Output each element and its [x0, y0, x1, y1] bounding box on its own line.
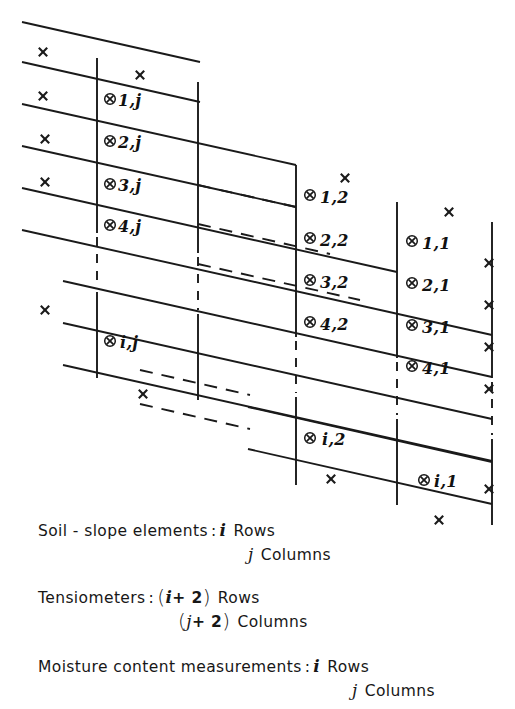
legend-entry-tensiometers-line1: Tensiometers:(i+ 2)Rows — [38, 585, 260, 609]
cell-label-i2: i,2 — [322, 430, 346, 449]
measurement-point-31 — [407, 320, 418, 331]
measurement-point-4j — [105, 220, 116, 231]
legend-symbol-j: j — [248, 544, 254, 564]
legend-plus-two: + 2 — [172, 589, 202, 607]
legend-colon: : — [208, 522, 220, 540]
cell-label-text: 2,1 — [422, 276, 451, 295]
cell-label-12: 1,2 — [320, 188, 349, 207]
legend-unit-rows: Rows — [211, 589, 260, 607]
legend-unit-columns: Columns — [358, 682, 435, 700]
cell-label-text: 3,1 — [422, 318, 451, 337]
tensiometer-mark — [41, 135, 49, 143]
tensiometer-mark — [41, 306, 49, 314]
row-lines — [22, 22, 492, 504]
measurement-point-symbols — [105, 94, 430, 486]
cell-label-42: 4,2 — [320, 315, 349, 334]
cell-label-text: i,j — [120, 333, 138, 352]
cell-label-text: 3,2 — [320, 273, 349, 292]
cell-label-text: 2,j — [118, 133, 141, 152]
tensiometer-mark — [341, 174, 349, 182]
tensiometer-mark — [139, 390, 147, 398]
legend-label-tensiometers: Tensiometers — [38, 589, 146, 607]
dashed-row-d — [140, 370, 250, 395]
legend-unit-rows: Rows — [226, 522, 275, 540]
row-line-top — [22, 22, 200, 62]
cell-label-22: 2,2 — [320, 231, 349, 250]
cell-label-i1: i,1 — [434, 472, 458, 491]
cell-label-3j: 3,j — [118, 176, 141, 195]
legend: Soil - slope elements:iRows jColumns Ten… — [0, 508, 515, 708]
cell-label-text: 4,2 — [320, 315, 349, 334]
cell-label-text: 3,j — [118, 176, 141, 195]
cell-label-text: i,1 — [434, 472, 458, 491]
legend-unit-rows: Rows — [320, 658, 369, 676]
cell-label-text: 4,j — [118, 217, 141, 236]
measurement-point-i1 — [419, 475, 430, 486]
measurement-point-2j — [105, 136, 116, 147]
cell-label-31: 3,1 — [422, 318, 451, 337]
measurement-point-32 — [305, 275, 316, 286]
cell-label-41: 4,1 — [422, 359, 451, 378]
cell-label-text: 2,2 — [320, 231, 349, 250]
legend-label-soil-slope: Soil - slope elements — [38, 522, 208, 540]
measurement-point-1j — [105, 94, 116, 105]
legend-label-moisture: Moisture content measurements — [38, 658, 302, 676]
measurement-point-3j — [105, 179, 116, 190]
cell-label-11: 1,1 — [422, 234, 451, 253]
legend-entry-moisture-line1: Moisture content measurements:iRows — [38, 656, 369, 676]
legend-entry-tensiometers-line2: (j+ 2)Columns — [178, 609, 308, 633]
tensiometer-mark — [327, 475, 335, 483]
measurement-point-12 — [305, 190, 316, 201]
soil-slope-diagram: 1,j 2,j 3,j 4,j i,j 1,2 2,2 3,2 4,2 i,2 … — [0, 0, 515, 709]
legend-symbol-j: j — [352, 680, 358, 700]
cell-label-text: 1,2 — [320, 188, 349, 207]
measurement-point-21 — [407, 278, 418, 289]
cell-label-text: 1,1 — [422, 234, 451, 253]
measurement-point-ij — [105, 336, 116, 347]
tensiometer-mark — [445, 208, 453, 216]
paren-close: ) — [203, 585, 211, 609]
legend-entry-soil-slope-line2: jColumns — [248, 544, 331, 564]
cell-label-21: 2,1 — [422, 276, 451, 295]
legend-colon: : — [146, 589, 158, 607]
cell-label-2j: 2,j — [118, 133, 141, 152]
legend-plus-two: + 2 — [192, 613, 222, 631]
measurement-point-22 — [305, 233, 316, 244]
cell-label-text: 1,j — [118, 91, 141, 110]
legend-unit-columns: Columns — [230, 613, 307, 631]
paren-open: ( — [178, 609, 186, 633]
cell-label-32: 3,2 — [320, 273, 349, 292]
cell-label-text: 4,1 — [422, 359, 451, 378]
row-line-1 — [22, 62, 200, 102]
cell-label-ij: i,j — [120, 333, 138, 352]
row-line-9 — [248, 407, 492, 462]
cell-label-text: i,2 — [322, 430, 346, 449]
measurement-point-i2 — [305, 433, 316, 444]
dashed-row-e — [140, 404, 250, 429]
legend-entry-moisture-line2: jColumns — [352, 680, 435, 700]
measurement-point-11 — [407, 236, 418, 247]
legend-unit-columns: Columns — [254, 546, 331, 564]
measurement-point-42 — [305, 317, 316, 328]
cell-label-4j: 4,j — [118, 217, 141, 236]
legend-colon: : — [302, 658, 314, 676]
tensiometer-mark — [39, 92, 47, 100]
tensiometer-mark — [41, 178, 49, 186]
tensiometer-mark — [136, 71, 144, 79]
legend-entry-soil-slope-line1: Soil - slope elements:iRows — [38, 520, 275, 540]
measurement-point-41 — [407, 361, 418, 372]
cell-label-1j: 1,j — [118, 91, 141, 110]
tensiometer-mark — [39, 48, 47, 56]
